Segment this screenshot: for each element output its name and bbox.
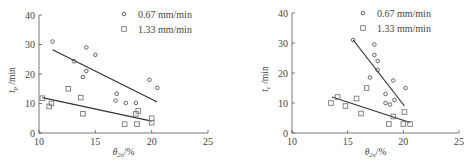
data-point-circle: [85, 69, 89, 73]
y-tick-label: 20: [25, 69, 35, 80]
fit-line: [53, 50, 158, 102]
data-point-circle: [384, 92, 388, 96]
y-axis-label: tp /min: [7, 67, 18, 93]
data-point-circle: [85, 46, 89, 50]
data-point-square: [81, 112, 86, 117]
x-axis-label: θ2n/%: [113, 147, 135, 158]
scatter-plot-tc: 10152025010203040tc /minθ2n/%0.67 mm/min…: [233, 0, 466, 161]
data-point-circle: [94, 53, 98, 57]
fit-line: [332, 97, 410, 123]
x-tick-label: 10: [287, 136, 297, 147]
data-point-circle: [373, 53, 377, 57]
y-tick-label: 30: [25, 39, 35, 50]
y-tick-label: 40: [25, 10, 35, 21]
x-tick-label: 20: [147, 136, 157, 147]
y-axis-label: tc /min: [260, 66, 271, 92]
data-point-square: [149, 116, 154, 121]
data-point-circle: [148, 78, 152, 82]
y-tick-label: 0: [30, 128, 35, 139]
data-point-square: [364, 86, 369, 91]
data-point-circle: [124, 101, 128, 105]
y-tick-label: 40: [278, 8, 288, 19]
data-point-circle: [156, 86, 160, 90]
scatter-plot-tp: 10152025010203040tp /minθ2n/%0.67 mm/min…: [0, 0, 233, 161]
data-point-circle: [384, 101, 388, 105]
y-tick-label: 10: [278, 98, 288, 109]
data-point-square: [343, 104, 348, 109]
fit-line: [353, 40, 404, 106]
x-tick-label: 15: [90, 136, 100, 147]
data-point-circle: [404, 86, 408, 90]
legend-label: 0.67 mm/min: [138, 9, 192, 20]
legend-circle-icon: [361, 11, 365, 15]
data-point-circle: [114, 99, 118, 103]
data-point-circle: [115, 92, 119, 96]
y-tick-label: 20: [278, 68, 288, 79]
legend-square-icon: [122, 27, 127, 32]
legend-square-icon: [361, 26, 366, 31]
data-point-square: [402, 110, 407, 115]
legend-label: 0.67 mm/min: [377, 8, 431, 19]
data-point-square: [387, 122, 392, 127]
data-point-circle: [392, 79, 396, 83]
x-tick-label: 20: [398, 136, 408, 147]
data-point-square: [78, 95, 83, 100]
data-point-square: [359, 111, 364, 116]
data-point-square: [354, 96, 359, 101]
data-point-square: [66, 86, 71, 91]
data-point-circle: [376, 59, 380, 63]
x-tick-label: 10: [34, 136, 44, 147]
data-point-square: [122, 122, 127, 127]
x-tick-label: 25: [203, 136, 213, 147]
data-point-square: [401, 122, 406, 127]
y-tick-label: 30: [278, 38, 288, 49]
legend-circle-icon: [122, 12, 126, 16]
data-point-circle: [368, 76, 372, 80]
data-point-circle: [134, 101, 138, 105]
data-point-square: [329, 101, 334, 106]
data-point-circle: [388, 103, 392, 107]
x-tick-label: 25: [454, 136, 464, 147]
y-tick-label: 10: [25, 98, 35, 109]
chart-right: 10152025010203040tc /minθ2n/%0.67 mm/min…: [233, 0, 466, 161]
data-point-circle: [393, 98, 397, 102]
legend-label: 1.33 mm/min: [377, 23, 431, 34]
data-point-square: [135, 122, 140, 127]
data-point-circle: [373, 43, 377, 47]
chart-left: 10152025010203040tp /minθ2n/%0.67 mm/min…: [0, 0, 233, 161]
x-tick-label: 15: [343, 136, 353, 147]
x-axis-label: θ2n/%: [365, 147, 387, 158]
data-point-circle: [81, 75, 85, 79]
legend-label: 1.33 mm/min: [138, 24, 192, 35]
data-point-circle: [51, 40, 55, 44]
y-tick-label: 0: [283, 128, 288, 139]
